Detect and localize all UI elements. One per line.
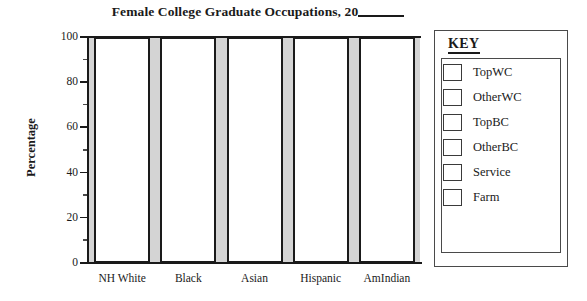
legend-swatch-icon — [443, 114, 462, 131]
plot-area — [89, 37, 420, 263]
legend-item-farm[interactable]: Farm — [443, 187, 561, 207]
legend-swatch-icon — [443, 64, 462, 81]
y-tick-label: 0 — [38, 257, 78, 269]
bar-amindian[interactable] — [359, 37, 415, 263]
legend-item-label: OtherBC — [473, 141, 518, 154]
chart-panel: Female College Graduate Occupations, 20 … — [0, 0, 430, 301]
y-tick-label: 60 — [38, 121, 78, 133]
legend-item-label: Service — [473, 166, 510, 179]
legend-item-label: TopWC — [473, 66, 512, 79]
legend-item-service[interactable]: Service — [443, 162, 561, 182]
x-axis-line — [88, 262, 422, 264]
legend-item-otherwc[interactable]: OtherWC — [443, 87, 561, 107]
plot-frame-top-edge — [89, 36, 421, 38]
bar-hispanic[interactable] — [293, 37, 349, 263]
x-category-label: AmIndian — [337, 272, 437, 284]
y-tick-label: 20 — [38, 212, 78, 224]
y-tick-label: 40 — [38, 167, 78, 179]
legend-swatch-icon — [443, 89, 462, 106]
legend-item-topbc[interactable]: TopBC — [443, 112, 561, 132]
chart-title-text: Female College Graduate Occupations, 20 — [112, 4, 359, 19]
legend-item-topwc[interactable]: TopWC — [443, 62, 561, 82]
bar-asian[interactable] — [227, 37, 283, 263]
legend-swatch-icon — [443, 189, 462, 206]
legend-swatch-icon — [443, 164, 462, 181]
y-tick-label: 80 — [38, 76, 78, 88]
bar-nh-white[interactable] — [94, 37, 150, 263]
legend-item-label: Farm — [473, 191, 499, 204]
legend-item-otherbc[interactable]: OtherBC — [443, 137, 561, 157]
legend-swatch-icon — [443, 139, 462, 156]
bar-black[interactable] — [160, 37, 216, 263]
y-axis-tick-labels: 100806040200 — [34, 0, 78, 301]
legend-item-label: TopBC — [473, 116, 509, 129]
chart-title: Female College Graduate Occupations, 20 — [88, 4, 428, 20]
legend-title: KEY — [448, 36, 480, 54]
chart-title-fill-in-blank — [358, 15, 404, 17]
y-tick-label: 100 — [38, 31, 78, 43]
legend-item-label: OtherWC — [473, 91, 522, 104]
y-axis-line — [87, 36, 89, 264]
